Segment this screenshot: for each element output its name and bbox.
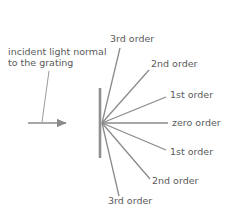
grating-diagram: incident light normal to the grating 3rd… [0, 0, 225, 217]
incident-light-label: incident light normal to the grating [8, 46, 107, 68]
label-order-0: zero order [172, 117, 221, 128]
label-order-1-up: 1st order [170, 89, 213, 100]
incident-label-leader-line [42, 71, 49, 122]
label-order-1-down: 1st order [170, 146, 213, 157]
ray-order-2-down [102, 123, 150, 179]
ray-order-2-up [102, 70, 149, 123]
label-order-2-down: 2nd order [152, 175, 198, 186]
label-order-3-up: 3rd order [110, 33, 154, 44]
ray-order-1-up [102, 97, 166, 123]
ray-order-1-down [102, 123, 166, 150]
label-order-2-up: 2nd order [151, 58, 197, 69]
ray-order-3-down [102, 123, 119, 196]
diffracted-rays-group [102, 48, 168, 196]
label-order-3-down: 3rd order [108, 195, 152, 206]
